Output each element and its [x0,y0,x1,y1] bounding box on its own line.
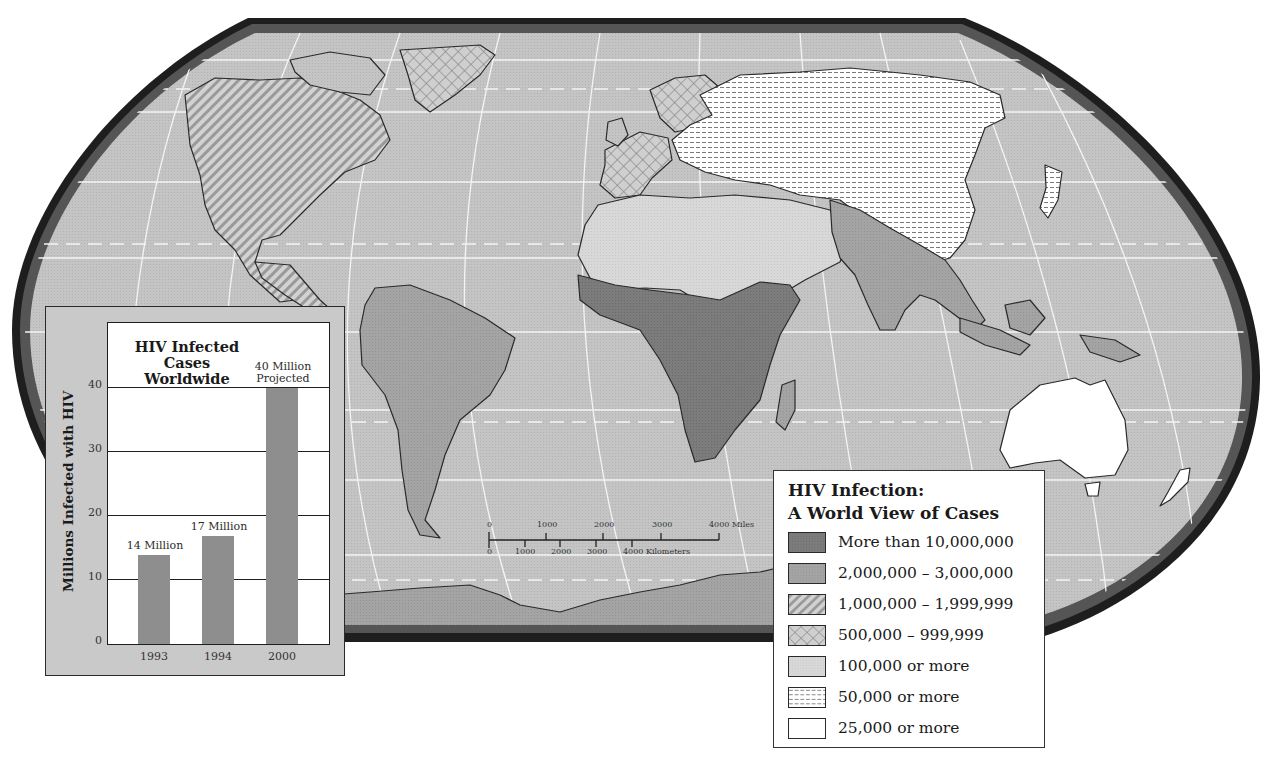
scale-miles-tick-0: 0 [487,520,492,529]
bar-label-2000-line2: Projected [248,373,318,385]
legend-title: HIV Infection: A World View of Cases [788,479,999,525]
legend-label: 500,000 – 999,999 [838,626,984,644]
legend-label: 1,000,000 – 1,999,999 [838,595,1013,613]
x-tick-1993: 1993 [134,650,174,663]
bar-label-1993: 14 Million [120,540,190,552]
legend-title-line-1: HIV Infection: [788,479,999,502]
scale-miles-tick-2: 2000 [594,520,614,529]
scale-km-tick-1: 1000 [515,547,535,556]
chart-plot-area: HIV Infected Cases Worldwide 14 Million … [107,322,330,645]
x-tick-2000: 2000 [262,650,302,663]
bar-1994 [202,536,234,644]
legend-item-50k: 50,000 or more [788,684,959,710]
scale-km-tick-3: 3000 [587,547,607,556]
legend-item-100k: 100,000 or more [788,653,969,679]
swatch-light-solid [788,656,826,677]
scale-miles-tick-4: 4000 Miles [709,520,754,529]
y-tick-0: 0 [82,634,102,647]
legend-label: 25,000 or more [838,719,959,737]
legend-item-more-than-10m: More than 10,000,000 [788,529,1014,555]
swatch-horizontal-dashed [788,687,826,708]
legend-item-25k: 25,000 or more [788,715,959,741]
region-tasmania [1085,482,1100,496]
y-tick-30: 30 [82,442,102,455]
x-tick-1994: 1994 [198,650,238,663]
bar-2000 [266,388,298,644]
legend-item-2m-3m: 2,000,000 – 3,000,000 [788,560,1013,586]
bar-label-1994: 17 Million [184,521,254,533]
scale-km-tick-2: 2000 [551,547,571,556]
scale-miles-tick-1: 1000 [537,520,557,529]
bar-1993 [138,555,170,644]
chart-title-line-2: Cases [122,355,252,371]
chart-title: HIV Infected Cases Worldwide [122,339,252,387]
y-tick-20: 20 [82,506,102,519]
swatch-dark-solid [788,532,826,553]
legend-item-500k-1m: 500,000 – 999,999 [788,622,984,648]
legend-label: 100,000 or more [838,657,969,675]
scale-km-tick-0: 0 [487,547,492,556]
chart-title-line-3: Worldwide [122,371,252,387]
y-tick-10: 10 [82,570,102,583]
scale-miles-tick-3: 3000 [652,520,672,529]
scale-km-tick-4: 4000 Kilometers [623,547,690,556]
legend-label: 50,000 or more [838,688,959,706]
map-legend: HIV Infection: A World View of Cases Mor… [773,470,1045,748]
y-tick-40: 40 [82,378,102,391]
swatch-diagonal-hatch [788,594,826,615]
legend-label: 2,000,000 – 3,000,000 [838,564,1013,582]
swatch-medium-solid [788,563,826,584]
chart-y-axis-label: Millions Infected with HIV [60,391,76,592]
scale-bar: 0 1000 2000 3000 4000 Miles 0 1000 2000 … [485,518,765,558]
legend-item-1m-2m: 1,000,000 – 1,999,999 [788,591,1013,617]
hiv-bar-chart-panel: Millions Infected with HIV HIV Infected … [45,306,345,676]
legend-title-line-2: A World View of Cases [788,502,999,525]
legend-label: More than 10,000,000 [838,533,1014,551]
swatch-cross-hatch [788,625,826,646]
chart-title-line-1: HIV Infected [122,339,252,355]
swatch-white [788,718,826,739]
